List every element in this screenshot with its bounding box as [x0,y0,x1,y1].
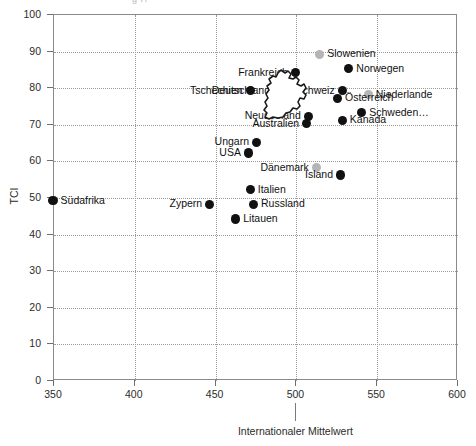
y-tick-label: 80 [1,82,41,92]
y-tick-mark [47,307,53,308]
x-tick-label: 350 [31,389,75,399]
data-point-label: Tschechien [190,85,243,96]
gridline-horizontal [54,271,458,272]
data-point-label: Italien [258,184,286,195]
y-tick-label: 10 [1,338,41,348]
gridline-horizontal [54,308,458,309]
germany-map-outline [259,68,315,128]
x-tick-mark [457,380,458,386]
x-tick-label: 550 [354,389,398,399]
data-point-label: Dänemark [260,162,308,173]
y-tick-mark [47,343,53,344]
y-tick-label: 100 [1,9,41,19]
x-tick-mark [134,380,135,386]
data-point-label: Kanada [350,114,386,125]
x-tick-label: 400 [112,389,156,399]
y-tick-label: 30 [1,265,41,275]
y-tick-label: 90 [1,46,41,56]
gridline-horizontal [54,198,458,199]
data-point [252,138,261,147]
gridline-vertical [216,15,217,381]
data-point-label: Norwegen [356,63,404,74]
y-tick-mark [47,51,53,52]
y-tick-mark [47,160,53,161]
gridline-vertical [135,15,136,381]
data-point [231,214,240,223]
data-point [48,196,57,205]
y-tick-mark [47,87,53,88]
data-point-label: Zypern [169,198,202,209]
cutoff-header-text: g H [132,0,148,4]
international-mean-line [295,403,296,421]
international-mean-label: Internationaler Mittelwert [185,425,405,437]
x-tick-mark [295,380,296,386]
y-tick-mark [47,14,53,15]
data-point-label: Russland [261,198,305,209]
data-point [336,170,345,179]
x-tick-label: 450 [193,389,237,399]
gridline-horizontal [54,161,458,162]
x-tick-mark [376,380,377,386]
x-tick-label: 600 [435,389,476,399]
y-tick-mark [47,234,53,235]
y-tick-mark [47,124,53,125]
data-point [249,200,258,209]
data-point-label: Niederlande [376,89,433,100]
y-tick-label: 60 [1,155,41,165]
data-point-label: Island [305,169,333,180]
y-tick-label: 0 [1,375,41,385]
data-point [315,50,324,59]
gridline-horizontal [54,235,458,236]
x-tick-mark [215,380,216,386]
data-point-label: Slowenien [327,48,375,59]
data-point-label: USA [219,147,241,158]
data-point-label: Litauen [243,213,277,224]
y-tick-label: 70 [1,119,41,129]
data-point [338,116,347,125]
gridline-horizontal [54,344,458,345]
y-tick-label: 50 [1,192,41,202]
data-point [244,148,253,157]
y-tick-mark [47,270,53,271]
data-point-label: Ungarn [215,136,249,147]
y-tick-label: 40 [1,229,41,239]
chart-canvas: g H TCI 01020304050607080901003504004505… [0,0,476,446]
gridline-horizontal [54,52,458,53]
y-tick-label: 20 [1,302,41,312]
data-point [246,185,255,194]
data-point-label: Südafrika [61,195,105,206]
x-tick-label: 500 [273,389,317,399]
x-tick-mark [53,380,54,386]
